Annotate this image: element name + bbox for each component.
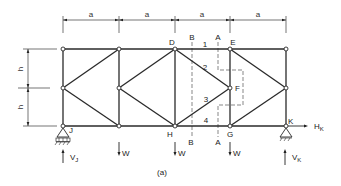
diagonal (63, 49, 119, 88)
section-label-a-top: A (215, 33, 221, 42)
member-label-2: 2 (203, 63, 208, 72)
dim-label-h-1: h (16, 67, 25, 71)
dim-label-a-2: a (145, 10, 150, 19)
joint-e (228, 47, 232, 51)
pin-support-j (55, 128, 70, 145)
node-label-g: G (227, 130, 233, 139)
left-dimension-line (18, 49, 57, 126)
reaction-arrow-vk (284, 149, 287, 165)
load-arrow-2 (174, 142, 177, 156)
truss (63, 49, 286, 126)
node-label-h: H (167, 130, 173, 139)
joint-f (228, 86, 232, 90)
member-label-4: 4 (204, 116, 209, 125)
load-label-w-1: W (122, 149, 130, 158)
reaction-label-vj: VJ (70, 153, 78, 163)
reaction-label-vk: VK (292, 153, 301, 163)
reaction-label-hk: HK (314, 122, 324, 132)
section-label-b-bottom: B (188, 138, 193, 147)
node-label-k: K (288, 117, 294, 126)
diagonal (230, 88, 286, 126)
diagonal (119, 49, 175, 88)
diagonal (119, 88, 175, 126)
truss-figure: a a a a h h (0, 0, 341, 186)
diagonal (63, 88, 119, 126)
load-label-w-3: W (233, 149, 241, 158)
load-arrow-1 (118, 142, 121, 156)
dim-label-a-4: a (256, 10, 261, 19)
reaction-arrow-vj (62, 149, 65, 163)
node-label-d: D (169, 38, 175, 47)
member-label-3: 3 (204, 95, 209, 104)
pin-support-k (280, 128, 292, 141)
member-label-1: 1 (203, 40, 208, 49)
joint-h (173, 124, 177, 128)
load-arrow-3 (229, 142, 232, 156)
dim-label-a-3: a (200, 10, 205, 19)
joint-d (173, 47, 177, 51)
section-label-b-top: B (189, 33, 194, 42)
member-3 (175, 88, 230, 126)
load-label-w-2: W (178, 149, 186, 158)
diagonal (230, 49, 286, 88)
top-dimension-line (63, 16, 286, 33)
node-label-e: E (230, 38, 235, 47)
figure-caption: (a) (157, 168, 167, 177)
joint-g (228, 124, 232, 128)
node-label-j: J (69, 126, 73, 135)
dim-label-a-1: a (89, 10, 94, 19)
node-label-f: F (235, 84, 240, 93)
section-label-a-bottom: A (215, 138, 221, 147)
dim-label-h-2: h (16, 105, 25, 109)
